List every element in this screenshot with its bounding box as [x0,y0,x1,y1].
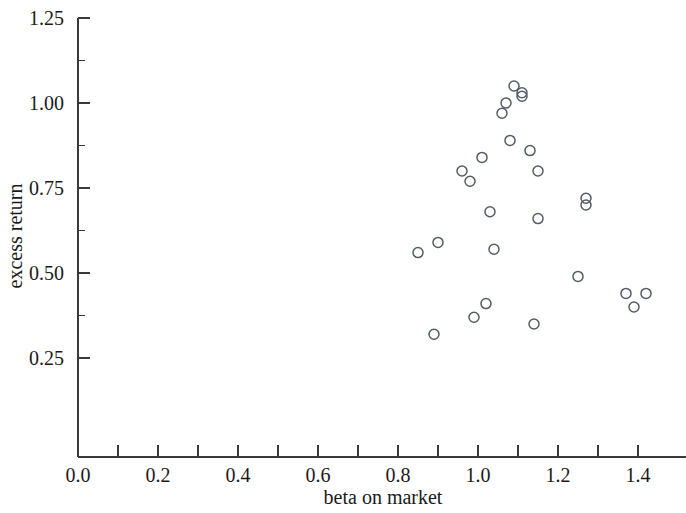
plot-canvas: 0.250.500.751.001.25 0.00.20.40.60.81.01… [0,0,686,513]
data-point [429,329,439,339]
x-tick-label: 0.8 [386,464,411,486]
data-point [477,152,487,162]
data-point [433,237,443,247]
data-point [465,176,475,186]
data-point [533,166,543,176]
x-tick-labels: 0.00.20.40.60.81.01.21.4 [66,464,651,486]
data-point [505,135,515,145]
x-tick-label: 1.2 [546,464,571,486]
data-point [581,200,591,210]
x-tick-label: 1.4 [626,464,651,486]
x-tick-label: 0.0 [66,464,91,486]
tick-marks [78,18,638,457]
data-point [533,214,543,224]
data-point [621,288,631,298]
y-tick-label: 0.50 [29,262,64,284]
data-point [485,207,495,217]
x-tick-label: 1.0 [466,464,491,486]
y-tick-label: 0.75 [29,177,64,199]
data-point [469,312,479,322]
x-axis-title: beta on market [324,486,443,508]
x-tick-label: 0.6 [306,464,331,486]
data-point [629,302,639,312]
y-tick-label: 0.25 [29,347,64,369]
data-point [573,271,583,281]
data-point [641,288,651,298]
y-tick-label: 1.25 [29,7,64,29]
data-point [481,299,491,309]
data-points [413,81,651,339]
data-point [501,98,511,108]
data-point [413,248,423,258]
axes [78,18,686,457]
x-tick-label: 0.2 [146,464,171,486]
data-point [457,166,467,176]
data-point [489,244,499,254]
y-tick-labels: 0.250.500.751.001.25 [29,7,64,369]
data-point [497,108,507,118]
data-point [529,319,539,329]
data-point [525,146,535,156]
scatter-chart: 0.250.500.751.001.25 0.00.20.40.60.81.01… [0,0,686,513]
y-axis-title: excess return [4,184,26,289]
x-tick-label: 0.4 [226,464,251,486]
y-tick-label: 1.00 [29,92,64,114]
